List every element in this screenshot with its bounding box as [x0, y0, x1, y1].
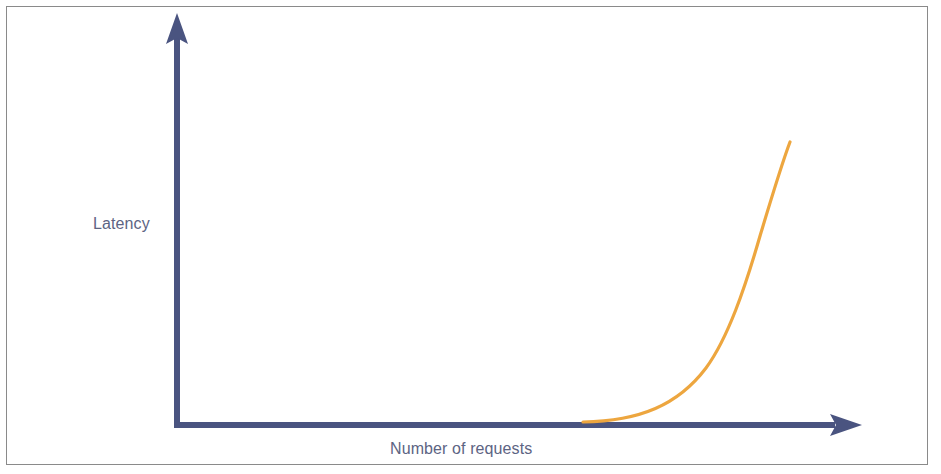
chart-figure: Latency Number of requests — [0, 0, 941, 474]
latency-curve — [583, 142, 790, 422]
chart-canvas — [0, 0, 941, 474]
y-axis-label: Latency — [93, 216, 150, 232]
x-axis-label: Number of requests — [390, 441, 532, 457]
